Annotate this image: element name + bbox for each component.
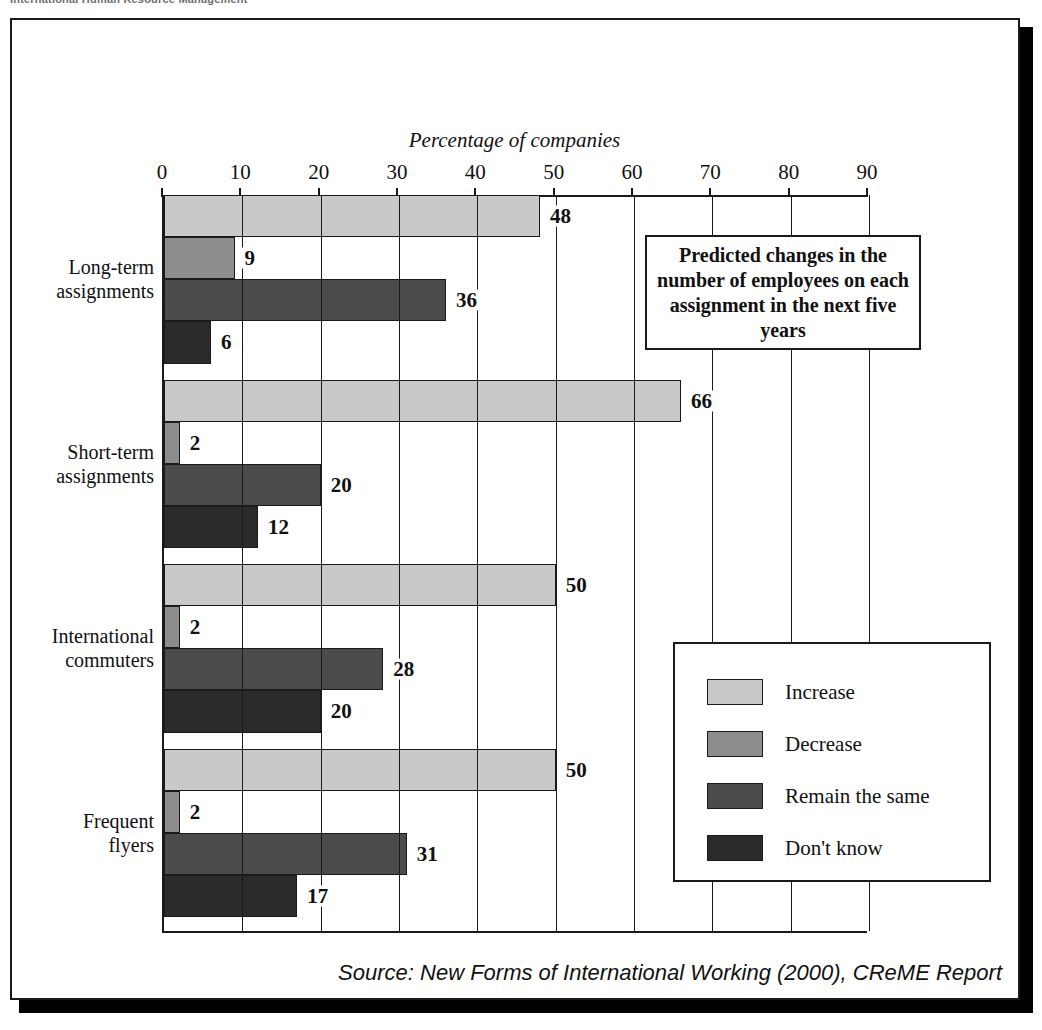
bar[interactable]: [164, 195, 540, 237]
bar-value-label: 17: [304, 885, 331, 906]
legend-label: Don't know: [785, 836, 883, 861]
bar[interactable]: [164, 237, 235, 279]
legend-item[interactable]: Remain the same: [707, 770, 989, 822]
bar[interactable]: [164, 749, 556, 791]
legend-label: Remain the same: [785, 784, 930, 809]
category-label-line: Frequent: [14, 809, 154, 833]
bar[interactable]: [164, 875, 297, 917]
category-label-line: assignments: [14, 464, 154, 488]
bar-value-label: 31: [414, 843, 441, 864]
bar-value-label: 50: [563, 759, 590, 780]
bar-row: 66: [164, 380, 867, 422]
legend-item[interactable]: Decrease: [707, 718, 989, 770]
legend-swatch-icon: [707, 731, 763, 757]
bar-value-label: 50: [563, 575, 590, 596]
bar-value-label: 36: [453, 290, 480, 311]
bar-value-label: 20: [328, 701, 355, 722]
bar[interactable]: [164, 279, 446, 321]
bar-row: 48: [164, 195, 867, 237]
bar[interactable]: [164, 380, 681, 422]
x-tick-label-50: 50: [543, 160, 564, 185]
legend-swatch-icon: [707, 783, 763, 809]
source-note: Source: New Forms of International Worki…: [12, 960, 1002, 986]
cropped-page-header: International Human Resource Management: [10, 0, 910, 10]
figure-frame: Percentage of companies 0102030405060708…: [10, 18, 1020, 1000]
bar-value-label: 20: [328, 474, 355, 495]
bar-value-label: 6: [218, 332, 235, 353]
x-tick-label-60: 60: [622, 160, 643, 185]
bar-value-label: 48: [547, 206, 574, 227]
category-label-3: Internationalcommuters: [14, 624, 154, 672]
bar-group: 6622012: [164, 380, 867, 565]
x-tick-label-80: 80: [778, 160, 799, 185]
bar-value-label: 66: [688, 390, 715, 411]
legend-item[interactable]: Increase: [707, 666, 989, 718]
chart-title: Percentage of companies: [162, 128, 867, 153]
category-label-2: Short-termassignments: [14, 440, 154, 488]
bar-value-label: 28: [390, 659, 417, 680]
bar-row: 50: [164, 564, 867, 606]
bar-row: 2: [164, 422, 867, 464]
x-tick-label-0: 0: [157, 160, 168, 185]
bar[interactable]: [164, 791, 180, 833]
bar[interactable]: [164, 506, 258, 548]
category-axis-labels: Long-termassignmentsShort-termassignment…: [12, 195, 154, 933]
bar-value-label: 9: [242, 248, 259, 269]
cropped-header-text: International Human Resource Management: [10, 0, 910, 5]
category-label-4: Frequentflyers: [14, 809, 154, 857]
category-label-line: International: [14, 624, 154, 648]
bar[interactable]: [164, 833, 407, 875]
x-tick-label-90: 90: [857, 160, 878, 185]
bar[interactable]: [164, 464, 321, 506]
bar-value-label: 2: [187, 432, 204, 453]
category-label-1: Long-termassignments: [14, 255, 154, 303]
category-label-line: flyers: [14, 833, 154, 857]
bar[interactable]: [164, 321, 211, 363]
x-tick-label-70: 70: [700, 160, 721, 185]
x-tick-label-20: 20: [308, 160, 329, 185]
bar[interactable]: [164, 564, 556, 606]
bar[interactable]: [164, 690, 321, 732]
legend-item[interactable]: Don't know: [707, 822, 989, 874]
x-tick-label-10: 10: [230, 160, 251, 185]
annotation-box: Predicted changes in the number of emplo…: [645, 235, 921, 350]
bar-value-label: 12: [265, 516, 292, 537]
category-label-line: assignments: [14, 279, 154, 303]
chart-legend: IncreaseDecreaseRemain the sameDon't kno…: [673, 642, 991, 882]
bar-value-label: 2: [187, 801, 204, 822]
category-label-line: commuters: [14, 648, 154, 672]
legend-label: Increase: [785, 680, 855, 705]
x-tick-label-40: 40: [465, 160, 486, 185]
category-label-line: Long-term: [14, 255, 154, 279]
category-label-line: Short-term: [14, 440, 154, 464]
x-tick-label-30: 30: [387, 160, 408, 185]
legend-swatch-icon: [707, 835, 763, 861]
bar-value-label: 2: [187, 617, 204, 638]
bar-row: 12: [164, 506, 867, 548]
annotation-text: Predicted changes in the number of emplo…: [647, 243, 919, 343]
bar[interactable]: [164, 648, 383, 690]
legend-swatch-icon: [707, 679, 763, 705]
bar-row: 20: [164, 464, 867, 506]
bar[interactable]: [164, 606, 180, 648]
bar[interactable]: [164, 422, 180, 464]
legend-label: Decrease: [785, 732, 862, 757]
